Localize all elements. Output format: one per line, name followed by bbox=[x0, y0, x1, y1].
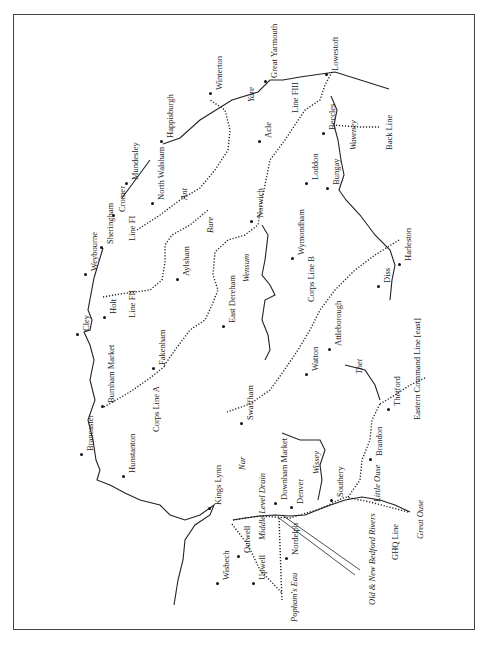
town-label: Aylsham bbox=[182, 246, 191, 276]
town-label: Happisburgh bbox=[166, 94, 175, 138]
town-label: Fakenham bbox=[158, 330, 167, 365]
river-label: Wensum bbox=[242, 254, 251, 282]
town-marker-icon bbox=[250, 220, 253, 223]
town-marker-icon bbox=[125, 182, 128, 185]
town-marker-icon bbox=[330, 499, 333, 502]
town-label: Bungay bbox=[332, 159, 341, 185]
nordelph-line bbox=[279, 518, 282, 600]
defence-line-label: Line FII bbox=[128, 290, 137, 318]
town-marker-icon bbox=[101, 405, 104, 408]
town-marker-icon bbox=[290, 506, 293, 509]
town-label: Brandon bbox=[375, 427, 384, 456]
town-marker-icon bbox=[151, 202, 154, 205]
town-label: Attleborough bbox=[334, 301, 343, 346]
town-label: Brancaster bbox=[86, 415, 95, 451]
town-marker-icon bbox=[274, 502, 277, 505]
town-label: Outwell bbox=[243, 526, 252, 553]
river-wensum bbox=[262, 225, 275, 360]
town-marker-icon bbox=[328, 348, 331, 351]
town-marker-icon bbox=[398, 263, 401, 266]
town-label: Mundesley bbox=[131, 142, 140, 180]
town-marker-icon bbox=[285, 557, 288, 560]
river-label: Popham's Eau bbox=[290, 573, 299, 622]
town-marker-icon bbox=[222, 325, 225, 328]
town-label: Burnham Market bbox=[107, 345, 116, 403]
town-label: Southery bbox=[336, 466, 345, 497]
town-label: Loddon bbox=[311, 154, 320, 180]
town-marker-icon bbox=[258, 140, 261, 143]
river-label: Nar bbox=[238, 457, 247, 470]
town-label: Upwell bbox=[258, 555, 267, 580]
town-marker-icon bbox=[369, 458, 372, 461]
town-label: Holt bbox=[109, 299, 118, 314]
town-marker-icon bbox=[103, 316, 106, 319]
town-label: East Dereham bbox=[228, 275, 237, 323]
defence-line-label: Line FIII bbox=[291, 82, 300, 113]
river-label: Bure bbox=[206, 217, 215, 233]
town-marker-icon bbox=[209, 92, 212, 95]
town-label: Winterton bbox=[215, 56, 224, 90]
town-label: Weybourne bbox=[90, 232, 99, 271]
river-label: Thet bbox=[355, 359, 364, 374]
town-label: Thetford bbox=[393, 376, 402, 406]
town-label: Denver bbox=[296, 479, 305, 504]
town-label: Cley bbox=[82, 315, 91, 331]
town-marker-icon bbox=[305, 182, 308, 185]
town-label: Harleston bbox=[404, 228, 413, 261]
town-label: Nordelph bbox=[291, 523, 300, 555]
town-label: Great Yarmouth bbox=[270, 24, 279, 78]
town-label: Lowestoft bbox=[331, 37, 340, 71]
river-label: Little Ouse bbox=[373, 464, 382, 502]
town-marker-icon bbox=[305, 373, 308, 376]
town-label: Swaffham bbox=[246, 385, 255, 420]
town-label: North Walsham bbox=[157, 147, 166, 200]
river-label: Old & New Bedford Rivers bbox=[368, 513, 377, 605]
town-label: Acle bbox=[264, 122, 273, 138]
town-label: Downham Market bbox=[280, 438, 289, 500]
town-marker-icon bbox=[387, 408, 390, 411]
town-label: Watton bbox=[311, 347, 320, 371]
river-label: Great Ouse bbox=[416, 500, 425, 539]
town-label: Kings Lynn bbox=[214, 465, 223, 505]
defence-line-label: Corps Line B bbox=[307, 256, 316, 302]
river-label: Wissey bbox=[312, 451, 321, 474]
town-label: Beccles bbox=[328, 104, 337, 130]
defence-line-label: Back Line bbox=[385, 115, 394, 150]
line-fii bbox=[103, 210, 208, 297]
town-marker-icon bbox=[240, 422, 243, 425]
defence-line-label: Eastern Command Line [east] bbox=[413, 318, 422, 420]
town-marker-icon bbox=[84, 273, 87, 276]
town-marker-icon bbox=[216, 582, 219, 585]
town-label: Hunstanton bbox=[128, 434, 137, 473]
town-marker-icon bbox=[377, 285, 380, 288]
town-marker-icon bbox=[100, 246, 103, 249]
town-marker-icon bbox=[237, 555, 240, 558]
defence-line-label: GHQ Line bbox=[391, 524, 400, 560]
defence-line-label: Line FI bbox=[128, 216, 137, 241]
town-label: Cromer bbox=[118, 186, 127, 212]
river-label: Ant bbox=[180, 188, 189, 200]
town-marker-icon bbox=[325, 73, 328, 76]
town-marker-icon bbox=[326, 187, 329, 190]
river-label: Yare bbox=[247, 87, 256, 102]
town-marker-icon bbox=[252, 582, 255, 585]
town-label: Norwich bbox=[256, 188, 265, 218]
town-marker-icon bbox=[76, 333, 79, 336]
town-marker-icon bbox=[80, 453, 83, 456]
town-marker-icon bbox=[264, 80, 267, 83]
defence-line-label: Corps Line A bbox=[152, 386, 161, 432]
town-marker-icon bbox=[322, 132, 325, 135]
line-fi bbox=[137, 100, 230, 230]
town-marker-icon bbox=[122, 475, 125, 478]
line-fiii bbox=[164, 72, 332, 366]
town-marker-icon bbox=[160, 140, 163, 143]
town-marker-icon bbox=[176, 278, 179, 281]
river-label: Waveney bbox=[349, 120, 358, 150]
town-label: Sheringham bbox=[106, 203, 115, 244]
town-label: Wisbech bbox=[222, 551, 231, 580]
town-label: Diss bbox=[383, 268, 392, 283]
town-marker-icon bbox=[152, 367, 155, 370]
town-label: Wymondham bbox=[297, 209, 306, 255]
river-label: Middle Level Drain bbox=[258, 473, 267, 540]
town-marker-icon bbox=[291, 257, 294, 260]
